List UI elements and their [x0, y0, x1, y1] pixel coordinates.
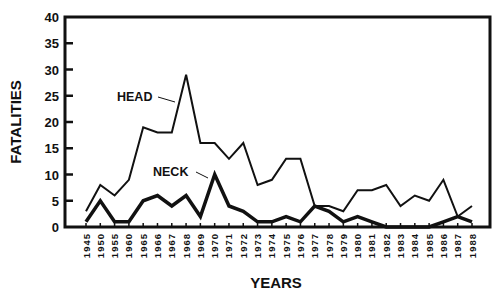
- x-tick-label: 1979: [338, 233, 349, 258]
- x-tick-label: 1950: [95, 233, 106, 258]
- x-tick-label: 1980: [352, 233, 363, 258]
- annotation-neck: NECK: [153, 165, 188, 179]
- y-tick-label: 30: [45, 63, 59, 78]
- axes: [65, 17, 490, 227]
- x-tick-label: 1976: [295, 233, 306, 258]
- series-line-neck: [86, 175, 472, 228]
- x-tick-label: 1966: [152, 233, 163, 258]
- annotation-head-leader: [158, 97, 175, 102]
- x-axis-title: YEARS: [250, 274, 302, 291]
- x-tick-label: 1983: [395, 233, 406, 258]
- x-tick-label: 1965: [138, 233, 149, 258]
- x-tick-label: 1975: [281, 233, 292, 258]
- annotation-head: HEAD: [117, 90, 152, 104]
- y-tick-label: 40: [45, 10, 59, 25]
- y-tick-label: 25: [45, 89, 59, 104]
- y-axis-ticks: 0510152025303540: [45, 10, 73, 235]
- x-tick-label: 1967: [166, 233, 177, 258]
- x-tick-label: 1969: [195, 233, 206, 258]
- annotation-neck-leader: [196, 172, 208, 178]
- x-tick-label: 1974: [266, 233, 277, 258]
- y-tick-label: 15: [45, 141, 59, 156]
- y-tick-label: 5: [52, 194, 59, 209]
- x-tick-label: 1978: [324, 233, 335, 258]
- y-tick-label: 0: [52, 220, 59, 235]
- x-tick-label: 1981: [366, 233, 377, 258]
- x-tick-label: 1968: [181, 233, 192, 258]
- y-tick-label: 35: [45, 36, 59, 51]
- x-tick-label: 1955: [109, 233, 120, 258]
- x-tick-label: 1987: [452, 233, 463, 258]
- x-tick-label: 1984: [409, 233, 420, 258]
- x-tick-label: 1970: [209, 233, 220, 258]
- y-tick-label: 20: [45, 115, 59, 130]
- x-tick-label: 1973: [252, 233, 263, 258]
- y-tick-label: 10: [45, 168, 59, 183]
- line-chart: 0510152025303540 19451950195519601965196…: [0, 0, 502, 296]
- x-tick-label: 1988: [467, 233, 478, 258]
- x-tick-label: 1982: [381, 233, 392, 258]
- x-tick-label: 1971: [223, 233, 234, 258]
- x-tick-label: 1972: [238, 233, 249, 258]
- x-tick-label: 1945: [81, 233, 92, 258]
- x-tick-label: 1985: [424, 233, 435, 258]
- y-axis-title: FATALITIES: [7, 80, 24, 164]
- annotations: HEADNECK: [117, 90, 208, 179]
- x-tick-label: 1977: [309, 233, 320, 258]
- x-tick-label: 1960: [123, 233, 134, 258]
- plot-frame: [65, 17, 490, 227]
- x-tick-label: 1986: [438, 233, 449, 258]
